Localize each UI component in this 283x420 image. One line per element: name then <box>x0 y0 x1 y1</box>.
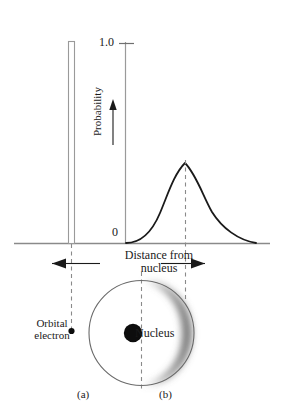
y-axis-tick-label-one-zero: 1.0 <box>99 36 114 49</box>
orbital-electron-label-line-2: electron <box>34 329 69 341</box>
probability-axis-arrow-icon <box>109 99 116 145</box>
orbital-electron-label: Orbital electron <box>24 318 80 341</box>
x-axis-title: Distance from nucleus <box>113 249 205 274</box>
quantum-probability-curve <box>126 163 256 243</box>
orbital-electron-label-line-1: Orbital <box>36 317 67 329</box>
nucleus-label: Nucleus <box>135 327 174 340</box>
bohr-probability-spike <box>69 42 75 244</box>
left-radius-marker-arrow-icon <box>52 259 100 269</box>
y-axis-tick-label-zero: 0 <box>112 226 118 239</box>
panel-label-b: (b) <box>159 389 172 401</box>
y-axis-title: Probability <box>92 87 104 136</box>
figure-canvas <box>0 0 283 420</box>
panel-label-a: (a) <box>77 389 89 401</box>
x-axis-title-line-2: nucleus <box>141 261 178 275</box>
physics-figure-bohr-vs-quantum: 1.0 0 Probability Distance from nucleus … <box>0 0 283 420</box>
